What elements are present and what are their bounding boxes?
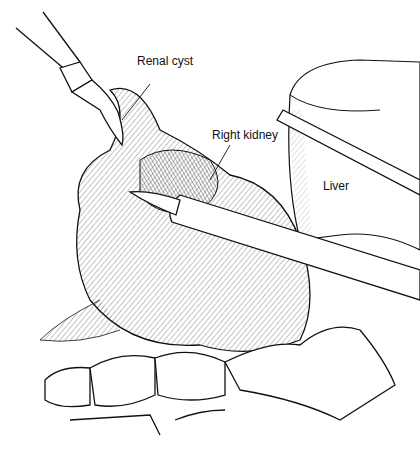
medical-illustration: Renal cyst Right kidney Liver [0,0,420,459]
illustration-drawing [0,0,420,459]
label-right-kidney: Right kidney [212,129,278,141]
label-liver: Liver [323,180,349,192]
grasper-instrument [16,12,123,145]
label-renal-cyst: Renal cyst [137,55,193,67]
